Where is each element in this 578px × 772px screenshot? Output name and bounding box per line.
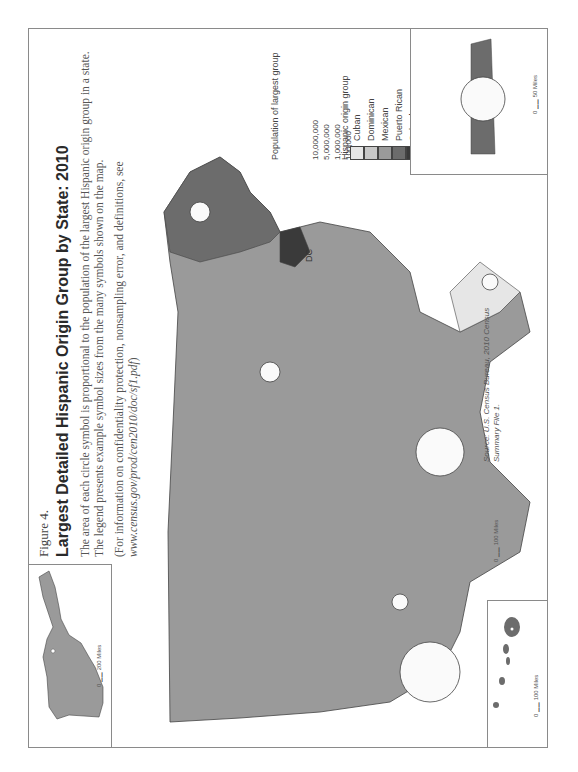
dc-label: DC	[304, 249, 314, 262]
circle-florida	[482, 274, 498, 290]
alaska-scale: 0 ▁▁ 200 Miles	[95, 645, 102, 687]
pr-scale: 0 ▁▁ 50 Miles	[531, 75, 538, 114]
color-legend: Hispanic origin group Cuban Dominican Me…	[340, 75, 420, 160]
circle-california	[400, 642, 460, 702]
figure-label: Figure 4.	[36, 510, 52, 557]
rotated-page: 0 ▁▁ 200 Miles Figure 4. Largest Detaile…	[0, 0, 578, 772]
circle-texas	[416, 428, 464, 476]
circle-new-york	[190, 202, 210, 222]
size-legend-title: Population of largest group	[270, 30, 280, 160]
legend-cuban: Cuban	[350, 75, 364, 160]
figure-description: The area of each circle symbol is propor…	[78, 37, 106, 557]
legend-puerto-rican: Puerto Rican	[392, 75, 406, 160]
main-scale: 0 ▁▁ 100 Miles	[492, 520, 499, 562]
puerto-rico-inset: 0 ▁▁ 50 Miles	[410, 28, 548, 175]
note-link[interactable]: www.census.gov/prod/cen2010/doc/sf1.pdf	[127, 361, 139, 557]
hawaii-scale: 0 ▁▁ 100 Miles	[532, 675, 539, 717]
legend-dominican: Dominican	[364, 75, 378, 160]
circle-arizona	[392, 594, 408, 610]
color-legend-title: Hispanic origin group	[340, 75, 350, 160]
hawaii-inset: 0 ▁▁ 100 Miles	[487, 600, 548, 748]
figure-title: Largest Detailed Hispanic Origin Group b…	[54, 145, 72, 557]
circle-illinois	[260, 362, 280, 382]
alaska-inset: 0 ▁▁ 200 Miles	[28, 564, 112, 748]
figure-note: (For information on confidentiality prot…	[112, 37, 140, 557]
hawaii-islands	[488, 599, 549, 747]
source-note: Source: U.S. Census Bureau, 2010 Census …	[482, 308, 502, 462]
legend-mexican: Mexican	[378, 75, 392, 160]
puerto-rico-shape	[411, 27, 549, 174]
